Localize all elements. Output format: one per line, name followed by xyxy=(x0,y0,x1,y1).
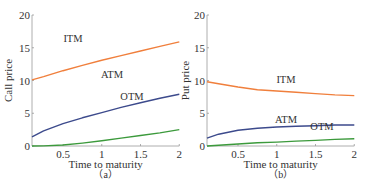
chart-panel-a: 051015200.511.52Time to maturity（a）Call … xyxy=(2,9,182,180)
y-tick-label: 20 xyxy=(19,9,31,21)
series-line-otm xyxy=(207,139,354,146)
y-tick-label: 0 xyxy=(25,140,31,152)
y-tick-label: 5 xyxy=(200,107,206,119)
y-tick-label: 15 xyxy=(19,42,31,54)
y-axis-label: Put price xyxy=(179,61,191,101)
y-tick-label: 15 xyxy=(194,42,206,54)
series-label-itm: ITM xyxy=(276,74,296,85)
series-line-atm xyxy=(32,94,179,137)
y-tick-label: 10 xyxy=(194,75,206,87)
x-tick-label: 2 xyxy=(352,148,358,160)
series-label-itm: ITM xyxy=(63,33,83,44)
y-tick-label: 0 xyxy=(200,140,206,152)
y-tick-label: 20 xyxy=(194,9,206,21)
series-label-atm: ATM xyxy=(101,69,124,80)
y-axis-label: Call price xyxy=(2,59,14,102)
series-line-otm xyxy=(32,130,179,146)
y-tick-label: 10 xyxy=(19,75,31,87)
series-label-otm: OTM xyxy=(120,91,144,102)
y-tick-label: 5 xyxy=(25,107,31,119)
x-tick-label: 2 xyxy=(177,148,183,160)
series-label-otm: OTM xyxy=(310,121,334,132)
chart-panel-b: 051015200.511.52Time to maturity（b）Put p… xyxy=(179,9,357,180)
figure: 051015200.511.52Time to maturity（a）Call … xyxy=(0,0,372,190)
panel-label: （a） xyxy=(93,169,117,180)
panel-label: （b） xyxy=(268,169,293,180)
series-label-atm: ATM xyxy=(275,114,298,125)
